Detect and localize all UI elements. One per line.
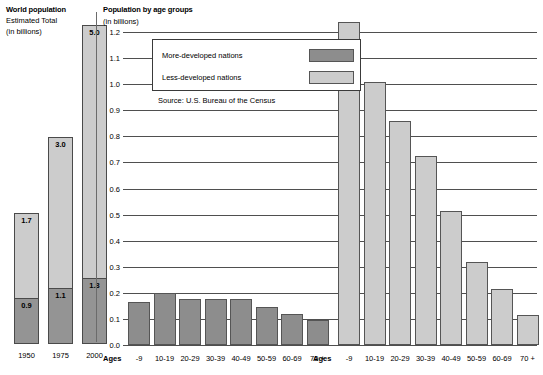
bar-dark-60-69	[281, 314, 303, 345]
gridline-0.5	[123, 215, 537, 216]
bar-light-70	[517, 315, 539, 345]
bar-dark-50-59	[256, 307, 278, 345]
left-panel-subtitle-2: (in billions)	[6, 27, 42, 36]
world-population-bar-1975: 3.01.1	[48, 137, 73, 345]
bar-light-30-39	[415, 156, 437, 345]
panel-divider	[96, 12, 97, 342]
legend-swatch-more-developed	[309, 49, 354, 62]
y-axis-tick-1.0: 1.0	[100, 80, 120, 89]
bar-dark--9	[128, 302, 150, 345]
world-population-bar-1950: 1.70.9	[14, 213, 39, 345]
x-axis-tick-light-70: 70 +	[509, 354, 543, 363]
bar-value-label: 1.7	[15, 216, 38, 225]
gridline-0.6	[123, 189, 537, 190]
y-axis-tick-0.4: 0.4	[100, 237, 120, 246]
gridline-0.7	[123, 162, 537, 163]
gridline-0.9	[123, 110, 537, 111]
y-axis-tick-0.5: 0.5	[100, 211, 120, 220]
bar-segment-more-developed: 1.1	[48, 288, 73, 344]
y-axis-tick-1.1: 1.1	[100, 54, 120, 63]
legend-swatch-less-developed	[309, 71, 354, 84]
legend-label-more-developed: More-developed nations	[162, 51, 242, 60]
y-axis-tick-0.2: 0.2	[100, 289, 120, 298]
y-axis-tick-0.6: 0.6	[100, 185, 120, 194]
source-note: Source: U.S. Bureau of the Census	[156, 96, 277, 105]
bar-value-label: 0.9	[15, 301, 38, 310]
y-axis-tick-0.3: 0.3	[100, 263, 120, 272]
world-population-panel: World population Estimated Total (in bil…	[0, 0, 100, 375]
bar-segment-less-developed: 3.0	[48, 137, 73, 289]
bar-value-label: 3.0	[49, 140, 72, 149]
bar-dark-30-39	[205, 299, 227, 345]
gridline-1.2	[123, 32, 537, 33]
population-by-age-panel: Population by age groups (in billions) 1…	[100, 0, 537, 375]
y-axis-tick-0.8: 0.8	[100, 132, 120, 141]
bar-dark-40-49	[230, 299, 252, 345]
bar-dark-20-29	[179, 299, 201, 345]
gridline-0.4	[123, 241, 537, 242]
x-axis-ages-label-1: Ages	[103, 354, 121, 363]
legend-item-less-developed: Less-developed nations	[162, 69, 354, 85]
y-axis-tick-1.2: 1.2	[100, 28, 120, 37]
bar-value-label: 1.1	[49, 291, 72, 300]
y-axis-tick-0.9: 0.9	[100, 106, 120, 115]
left-panel-title: World population	[6, 5, 66, 14]
bar-dark-10-19	[154, 293, 176, 345]
bar-light-60-69	[491, 289, 513, 345]
bar-dark-70	[307, 320, 329, 345]
y-axis-tick-0.1: 0.1	[100, 315, 120, 324]
bar-light-20-29	[389, 121, 411, 345]
world-population-xtick-1950: 1950	[14, 351, 39, 360]
bar-segment-more-developed: 0.9	[14, 298, 39, 344]
bar-light-10-19	[364, 82, 386, 345]
y-axis-tick-0.7: 0.7	[100, 158, 120, 167]
legend-item-more-developed: More-developed nations	[162, 47, 354, 63]
y-axis-tick-0.0: 0.0	[100, 341, 120, 350]
bar-segment-less-developed: 1.7	[14, 213, 39, 299]
x-axis-ages-label-2: Ages	[313, 354, 331, 363]
world-population-xtick-1975: 1975	[48, 351, 73, 360]
gridline-0.8	[123, 136, 537, 137]
chart-legend: More-developed nations Less-developed na…	[152, 39, 361, 91]
legend-label-less-developed: Less-developed nations	[162, 73, 241, 82]
bar-light-40-49	[440, 211, 462, 345]
left-panel-subtitle-1: Estimated Total	[6, 16, 57, 25]
x-axis-baseline	[123, 345, 537, 346]
bar-light-50-59	[466, 262, 488, 345]
